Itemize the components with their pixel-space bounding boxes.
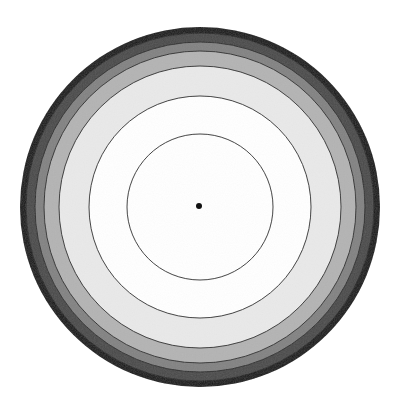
concentric-circle-diagram: [0, 0, 399, 412]
center-dot: [196, 203, 202, 209]
concentric-circles-svg: [0, 0, 399, 412]
